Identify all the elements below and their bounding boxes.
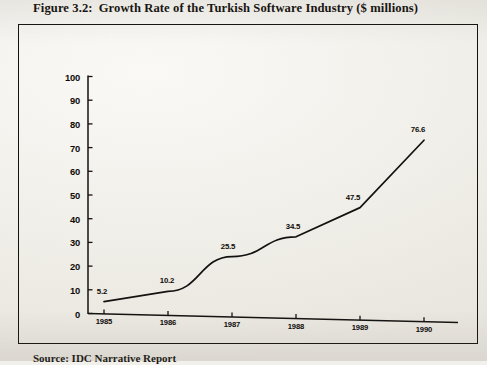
- data-point-label: 5.2: [97, 286, 107, 295]
- data-point-label: 76.6: [411, 125, 426, 134]
- y-axis-label: 90: [54, 95, 80, 106]
- y-axis-label: 70: [54, 142, 80, 153]
- y-axis-label: 30: [54, 237, 80, 248]
- x-axis-line: [88, 314, 458, 323]
- data-point-label: 47.5: [346, 192, 361, 201]
- x-axis-label: 1986: [160, 318, 177, 327]
- x-axis-label: 1989: [352, 323, 369, 332]
- x-axis-label: 1987: [224, 320, 241, 329]
- data-point-label: 34.5: [286, 221, 301, 230]
- y-axis-label: 80: [54, 118, 80, 129]
- y-axis-label: 40: [54, 213, 80, 224]
- y-axis-label: 0: [54, 308, 80, 319]
- x-axis-label: 1990: [416, 325, 433, 334]
- x-axis-label: 1985: [96, 317, 113, 326]
- y-axis-label: 100: [54, 71, 80, 82]
- y-axis-label: 50: [54, 190, 80, 201]
- y-axis-label: 60: [54, 166, 80, 177]
- source-note: Source: IDC Narrative Report: [33, 352, 176, 364]
- x-axis-label: 1988: [288, 322, 305, 331]
- data-point-label: 10.2: [160, 276, 175, 285]
- data-series-line: [104, 140, 424, 301]
- y-axis-label: 10: [54, 284, 80, 295]
- y-axis-label: 20: [54, 261, 80, 272]
- data-point-label: 25.5: [221, 241, 236, 250]
